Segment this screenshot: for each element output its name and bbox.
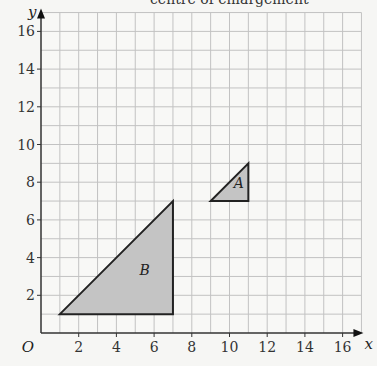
triangle-a-label: A	[232, 175, 244, 191]
y-tick-label: 4	[26, 250, 35, 266]
x-tick-label: 10	[221, 339, 239, 355]
coordinate-grid-diagram: AB 246810121416246810121416Oxy	[0, 0, 377, 366]
y-tick-label: 16	[17, 23, 35, 39]
x-tick-label: 4	[112, 339, 121, 355]
y-tick-label: 12	[17, 99, 35, 115]
x-tick-label: 16	[334, 339, 352, 355]
y-tick-label: 8	[26, 174, 35, 190]
x-tick-label: 8	[187, 339, 196, 355]
x-tick-label: 2	[74, 339, 83, 355]
x-tick-label: 12	[258, 339, 276, 355]
y-tick-label: 10	[17, 137, 35, 153]
triangle-b-label: B	[139, 262, 150, 278]
y-axis-name: y	[27, 3, 37, 21]
y-tick-label: 14	[17, 61, 35, 77]
x-tick-label: 14	[296, 339, 314, 355]
y-tick-label: 6	[26, 212, 35, 228]
x-axis-name: x	[364, 335, 373, 353]
x-tick-label: 6	[150, 339, 159, 355]
origin-label: O	[22, 338, 34, 356]
y-tick-label: 2	[26, 287, 35, 303]
